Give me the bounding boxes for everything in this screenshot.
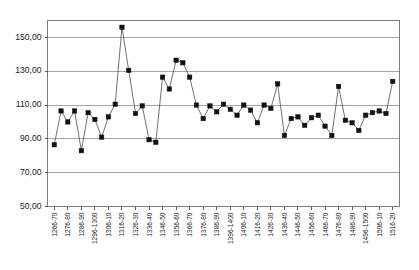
data-point-marker bbox=[384, 111, 388, 115]
data-point-marker bbox=[201, 116, 205, 120]
x-tick-label: 1496-1500 bbox=[362, 212, 369, 244]
data-point-marker bbox=[160, 75, 164, 79]
x-tick-label: 1386-90 bbox=[213, 212, 220, 237]
x-tick-label: 1276-80 bbox=[64, 212, 71, 237]
data-point-marker bbox=[133, 111, 137, 115]
series-line bbox=[54, 27, 392, 150]
x-tick-label: 1436-40 bbox=[281, 212, 288, 237]
x-tick-label: 1286-90 bbox=[78, 212, 85, 237]
data-point-marker bbox=[187, 75, 191, 79]
x-tick-label: 1456-60 bbox=[308, 212, 315, 237]
x-tick-label: 1506-10 bbox=[376, 212, 383, 237]
data-point-marker bbox=[86, 110, 90, 114]
data-point-marker bbox=[106, 115, 110, 119]
data-point-marker bbox=[113, 102, 117, 106]
data-point-marker bbox=[269, 106, 273, 110]
data-point-marker bbox=[93, 117, 97, 121]
x-tick-label: 1326-30 bbox=[132, 212, 139, 237]
data-point-marker bbox=[52, 143, 56, 147]
data-point-marker bbox=[154, 140, 158, 144]
x-tick-label: 1306-10 bbox=[105, 212, 112, 237]
data-point-marker bbox=[79, 149, 83, 153]
data-point-marker bbox=[316, 113, 320, 117]
data-point-marker bbox=[282, 133, 286, 137]
x-tick-label: 1426-30 bbox=[267, 212, 274, 237]
y-tick-label: 50,00 bbox=[20, 201, 42, 211]
data-point-marker bbox=[309, 116, 313, 120]
data-point-marker bbox=[296, 115, 300, 119]
data-point-marker bbox=[370, 110, 374, 114]
data-point-marker bbox=[127, 68, 131, 72]
data-point-marker bbox=[208, 104, 212, 108]
data-point-marker bbox=[194, 103, 198, 107]
chart-container: 50,0070,0090,00110,00130,00150,00 1266-7… bbox=[0, 0, 419, 270]
x-tick-label: 1336-40 bbox=[146, 212, 153, 237]
x-tick-label: 1356-60 bbox=[173, 212, 180, 237]
data-point-marker bbox=[275, 82, 279, 86]
data-point-marker bbox=[343, 118, 347, 122]
data-point-marker bbox=[228, 107, 232, 111]
y-tick-label: 130,00 bbox=[15, 65, 42, 75]
x-tick-label: 1316-20 bbox=[118, 212, 125, 237]
data-point-marker bbox=[181, 61, 185, 65]
data-point-marker bbox=[323, 124, 327, 128]
data-point-marker bbox=[140, 104, 144, 108]
x-tick-label: 1406-10 bbox=[240, 212, 247, 237]
data-point-marker bbox=[99, 135, 103, 139]
x-tick-label: 1516-20 bbox=[389, 212, 396, 237]
data-point-marker bbox=[147, 138, 151, 142]
data-point-marker bbox=[59, 109, 63, 113]
data-point-marker bbox=[167, 87, 171, 91]
y-tick-label: 70,00 bbox=[20, 167, 42, 177]
x-tick-label: 1296-1300 bbox=[91, 212, 98, 244]
data-point-marker bbox=[350, 121, 354, 125]
data-point-marker bbox=[215, 110, 219, 114]
y-tick-label: 150,00 bbox=[15, 32, 42, 42]
data-point-marker bbox=[255, 121, 259, 125]
data-point-marker bbox=[363, 113, 367, 117]
x-tick-label: 1416-20 bbox=[254, 212, 261, 237]
data-markers bbox=[52, 25, 395, 153]
x-tick-label: 1376-80 bbox=[200, 212, 207, 237]
data-point-marker bbox=[66, 120, 70, 124]
data-point-marker bbox=[377, 109, 381, 113]
y-tick-label: 110,00 bbox=[16, 99, 42, 109]
data-series bbox=[54, 27, 392, 150]
x-tick-label: 1396-1400 bbox=[227, 212, 234, 244]
data-point-marker bbox=[248, 108, 252, 112]
data-point-marker bbox=[391, 79, 395, 83]
x-tick-label: 1466-70 bbox=[322, 212, 329, 237]
data-point-marker bbox=[242, 103, 246, 107]
x-tick-label: 1476-80 bbox=[335, 212, 342, 237]
data-point-marker bbox=[72, 109, 76, 113]
line-chart: 50,0070,0090,00110,00130,00150,00 1266-7… bbox=[0, 0, 419, 270]
data-point-marker bbox=[303, 123, 307, 127]
data-point-marker bbox=[262, 103, 266, 107]
data-point-marker bbox=[120, 25, 124, 29]
x-tick-label: 1486-90 bbox=[349, 212, 356, 237]
plot-frame bbox=[48, 21, 400, 207]
data-point-marker bbox=[174, 58, 178, 62]
data-point-marker bbox=[336, 84, 340, 88]
x-tick-label: 1366-70 bbox=[186, 212, 193, 237]
data-point-marker bbox=[221, 102, 225, 106]
x-tick-label: 1266-70 bbox=[51, 212, 58, 237]
data-point-marker bbox=[330, 133, 334, 137]
x-tick-label: 1446-50 bbox=[294, 212, 301, 237]
data-point-marker bbox=[289, 116, 293, 120]
x-tick-label: 1346-50 bbox=[159, 212, 166, 237]
y-axis-tick-labels: 50,0070,0090,00110,00130,00150,00 bbox=[15, 32, 47, 211]
x-axis-tick-labels: 1266-701276-801286-901296-13001306-10131… bbox=[51, 207, 396, 245]
y-tick-label: 90,00 bbox=[20, 133, 42, 143]
data-point-marker bbox=[357, 128, 361, 132]
data-point-marker bbox=[235, 113, 239, 117]
